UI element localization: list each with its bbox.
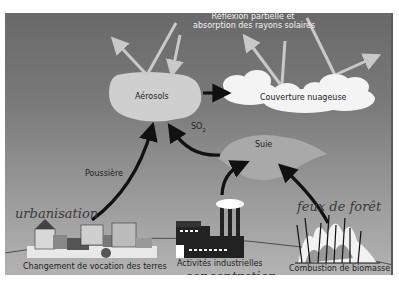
- land-use-label: Changement de vocation des terres: [23, 263, 167, 271]
- reflection-label-line2: absorption des rayons solaires: [193, 22, 313, 30]
- reflection-label-line1: Réflexion partielle et: [193, 13, 313, 21]
- aerosols-label: Aérosols: [135, 93, 169, 101]
- handwritten-feux-de-foret: feux de forêt: [297, 199, 381, 214]
- factory-illustration: [176, 199, 244, 258]
- clouds-label: Couverture nuageuse: [260, 94, 346, 102]
- soot-label: Suie: [255, 141, 272, 149]
- diagram-panel: Réflexion partielle et absorption des ra…: [5, 13, 393, 275]
- dust-label: Poussière: [85, 170, 123, 178]
- soot-blob: [219, 135, 327, 180]
- so2-label: SO2: [191, 123, 206, 133]
- arrow-biomass-to-soot: [285, 170, 328, 223]
- clouds: [222, 70, 375, 113]
- handwritten-concentration: concentration: [185, 269, 277, 275]
- houses-illustration: [27, 219, 157, 258]
- biomass-label: Combustion de biomasse: [289, 265, 390, 273]
- industry-label: Activités industrielles: [177, 260, 263, 268]
- so2-text: SO: [191, 122, 202, 131]
- diagram-graphics: [5, 13, 393, 275]
- handwritten-urbanisation: urbanisation: [15, 206, 98, 221]
- reflection-label: Réflexion partielle et absorption des ra…: [193, 13, 313, 30]
- arrow-soot-to-aerosols: [173, 131, 220, 155]
- fire-illustration: [295, 215, 380, 263]
- so2-subscript: 2: [202, 127, 205, 133]
